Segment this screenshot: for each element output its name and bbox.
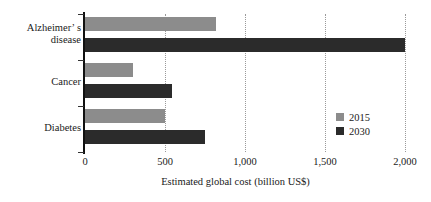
bar-group-cancer	[85, 60, 405, 106]
bar-chart: Alzheimer’ s disease Cancer Diabetes 0 5…	[0, 0, 431, 202]
chart-legend: 2015 2030	[336, 110, 370, 138]
x-tick-label-2000: 2,000	[393, 156, 417, 167]
x-tick-label-1500: 1,500	[313, 156, 337, 167]
legend-swatch-2030-icon	[336, 127, 344, 135]
x-tick-label-1000: 1,000	[233, 156, 257, 167]
category-label-alzheimer-text: Alzheimer’ s disease	[27, 22, 81, 45]
x-tick-label-500: 500	[157, 156, 173, 167]
category-label-alzheimer: Alzheimer’ s disease	[1, 22, 81, 46]
legend-label-2015: 2015	[349, 112, 370, 123]
bar-cancer-2015	[85, 63, 133, 77]
x-tick-label-0: 0	[82, 156, 87, 167]
category-tick-alzheimer	[78, 14, 84, 15]
x-axis-title-text: Estimated global cost (billion US$)	[121, 176, 310, 187]
bar-diabetes-2030	[85, 130, 205, 144]
category-label-diabetes: Diabetes	[1, 122, 81, 134]
category-label-cancer-text: Cancer	[51, 76, 81, 87]
gridline-2000	[405, 14, 406, 152]
category-tick-cancer	[78, 60, 84, 61]
bar-alzheimer-2030	[85, 38, 405, 52]
bar-diabetes-2015	[85, 109, 165, 123]
category-label-cancer: Cancer	[1, 76, 81, 88]
bar-group-alzheimer	[85, 14, 405, 60]
category-tick-diabetes	[78, 106, 84, 107]
legend-item-2030: 2030	[336, 124, 370, 138]
category-tick-end	[78, 152, 84, 153]
x-axis-title: Estimated global cost (billion US$)	[0, 176, 431, 187]
legend-item-2015: 2015	[336, 110, 370, 124]
category-label-diabetes-text: Diabetes	[44, 122, 81, 133]
legend-label-2030: 2030	[349, 126, 370, 137]
bar-alzheimer-2015	[85, 17, 216, 31]
legend-swatch-2015-icon	[336, 113, 344, 121]
bar-cancer-2030	[85, 84, 172, 98]
